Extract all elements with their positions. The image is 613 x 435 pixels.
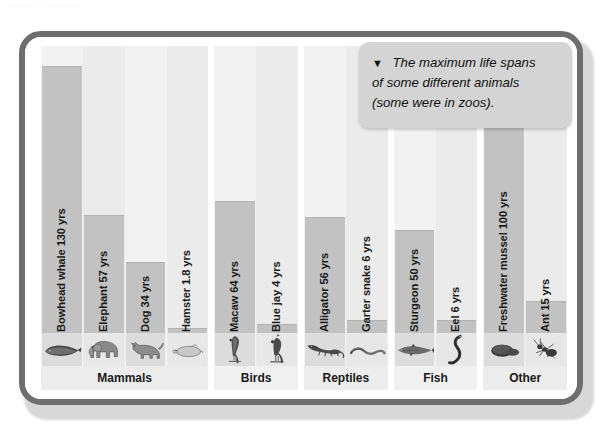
category-label-birds: Birds bbox=[214, 366, 298, 390]
chart-panel-inner: Bowhead whale 130 yrsElephant 57 yrsDog … bbox=[25, 37, 577, 399]
bluejay-icon bbox=[257, 333, 297, 366]
callout-line-3: (some were in zoos). bbox=[372, 93, 562, 113]
alligator-icon bbox=[305, 333, 345, 366]
bar-bowhead-whale[interactable] bbox=[42, 66, 82, 367]
bar-freshwater-mussel[interactable] bbox=[484, 127, 524, 366]
bar-column[interactable]: Bowhead whale 130 yrs bbox=[41, 46, 83, 366]
mussel-icon bbox=[484, 333, 524, 366]
down-triangle-icon: ▼ bbox=[372, 57, 385, 69]
category-axis: MammalsBirdsReptilesFishOther bbox=[41, 366, 567, 390]
chart-callout: ▼ The maximum life spans of some differe… bbox=[359, 42, 572, 128]
dog-icon bbox=[126, 333, 166, 366]
bar-column[interactable]: Macaw 64 yrs bbox=[214, 46, 256, 366]
bar-column[interactable]: Dog 34 yrs bbox=[125, 46, 167, 366]
bar-column[interactable]: Hamster 1.8 yrs bbox=[167, 46, 209, 366]
sturgeon-icon bbox=[395, 333, 435, 366]
whale-icon bbox=[42, 333, 82, 366]
chart-panel-frame: Bowhead whale 130 yrsElephant 57 yrsDog … bbox=[19, 31, 583, 405]
column-background bbox=[256, 46, 298, 366]
category-label-fish: Fish bbox=[394, 366, 478, 390]
macaw-icon bbox=[215, 333, 255, 366]
bar-column[interactable]: Elephant 57 yrs bbox=[83, 46, 125, 366]
eel-icon bbox=[437, 333, 477, 366]
ant-icon bbox=[526, 333, 566, 366]
hamster-icon bbox=[168, 333, 208, 366]
category-label-other: Other bbox=[483, 366, 567, 390]
elephant-icon bbox=[84, 333, 124, 366]
callout-line-2: of some different animals bbox=[372, 73, 562, 93]
callout-line-1: The maximum life spans bbox=[393, 55, 536, 70]
category-label-reptiles: Reptiles bbox=[304, 366, 388, 390]
bar-column[interactable]: Blue jay 4 yrs bbox=[256, 46, 298, 366]
faint-page-header: Animal Life Spans bbox=[8, 2, 81, 11]
snake-icon bbox=[347, 333, 387, 366]
column-background bbox=[167, 46, 209, 366]
callout-text: ▼ The maximum life spans of some differe… bbox=[372, 53, 562, 113]
bar-column[interactable]: Alligator 56 yrs bbox=[304, 46, 346, 366]
figure-root: Animal Life Spans Bowhead whale 130 yrsE… bbox=[0, 0, 613, 435]
category-label-mammals: Mammals bbox=[41, 366, 208, 390]
